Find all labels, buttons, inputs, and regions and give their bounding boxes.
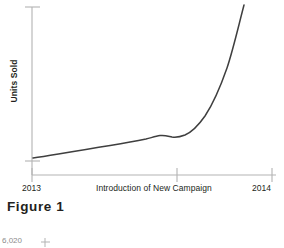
x-axis-tick-label-end: 2014 <box>252 183 271 193</box>
figure-caption: Figure 1 <box>7 199 64 214</box>
data-line-units-sold <box>33 5 244 158</box>
line-chart <box>0 0 284 198</box>
x-axis-tick-label-start: 2013 <box>22 183 41 193</box>
clipped-axis-tick-icon <box>41 238 50 247</box>
figure-page: Units Sold 2013 Introduction of New Camp… <box>0 0 284 248</box>
figure-chart-area: Units Sold 2013 Introduction of New Camp… <box>0 0 284 198</box>
x-axis-tick-label-campaign: Introduction of New Campaign <box>96 183 212 193</box>
clipped-next-figure-fragment: 6,020 <box>0 236 284 248</box>
clipped-axis-value-label: 6,020 <box>2 236 22 245</box>
y-axis-label: Units Sold <box>9 49 19 113</box>
